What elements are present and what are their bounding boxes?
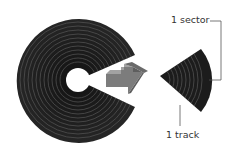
track-label: 1 track bbox=[166, 129, 199, 140]
arrow-icon bbox=[106, 62, 148, 94]
disk-hub bbox=[66, 68, 90, 92]
sector-label: 1 sector bbox=[171, 14, 210, 25]
